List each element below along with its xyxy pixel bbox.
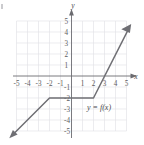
y-tick-label-neg4: -4: [64, 117, 70, 125]
x-tick-label-3: 3: [103, 80, 107, 88]
coordinate-plane-svg: x y -5 -4 -3 -2 -1 1 2 3 4 5 5 4 3 2 1 -…: [0, 0, 144, 145]
x-tick-label-5: 5: [125, 80, 129, 88]
x-tick-label-2: 2: [92, 80, 96, 88]
x-tick-label-neg2: -2: [47, 80, 53, 88]
y-tick-label-1: 1: [64, 62, 68, 70]
y-tick-label-4: 4: [64, 29, 68, 37]
y-tick-label-5: 5: [64, 18, 68, 26]
x-tick-label-4: 4: [114, 80, 118, 88]
x-axis-label: x: [133, 72, 138, 81]
y-tick-label-neg1: -1: [64, 84, 70, 92]
x-tick-label-1: 1: [81, 80, 85, 88]
function-graph-figure: x y -5 -4 -3 -2 -1 1 2 3 4 5 5 4 3 2 1 -…: [0, 0, 144, 145]
y-tick-label-neg3: -3: [64, 106, 70, 114]
function-label: y = f(x): [86, 103, 111, 112]
y-axis-label: y: [70, 1, 75, 10]
y-tick-label-neg5: -5: [64, 128, 70, 136]
x-tick-label-neg5: -5: [14, 80, 20, 88]
x-tick-label-neg1: -1: [58, 80, 64, 88]
y-tick-label-3: 3: [64, 40, 68, 48]
y-tick-label-2: 2: [64, 51, 68, 59]
x-tick-label-neg4: -4: [25, 80, 31, 88]
x-tick-label-neg3: -3: [36, 80, 42, 88]
